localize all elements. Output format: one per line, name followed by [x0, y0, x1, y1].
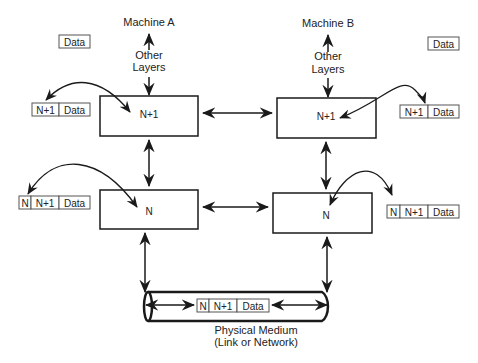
layer-box-a-lower-label: N — [145, 206, 152, 217]
machine-b-label: Machine B — [302, 17, 354, 29]
packet-a-upper: N+1 Data — [32, 103, 90, 116]
packet-a-lower: N N+1 Data — [19, 196, 90, 209]
packet-field-data: Data — [433, 39, 455, 50]
packet-b-lower: N N+1 Data — [387, 205, 459, 218]
packet-field-header-n1: N+1 — [405, 207, 424, 218]
packet-field-header-n: N — [21, 198, 28, 209]
packet-field-data: Data — [64, 37, 86, 48]
packet-medium: N N+1 Data — [197, 299, 269, 312]
packet-b-top: Data — [428, 37, 459, 50]
layer-box-b-lower-label: N — [322, 210, 329, 221]
other-layers-label-b-2: Layers — [311, 63, 345, 75]
packet-field-data: Data — [433, 207, 455, 218]
packet-b-upper: N+1 Data — [400, 105, 459, 118]
layer-box-a-upper-label: N+1 — [140, 109, 159, 120]
other-layers-label-b-1: Other — [314, 50, 342, 62]
layer-box-a-lower: N — [100, 190, 198, 229]
packet-field-header-n: N — [199, 301, 206, 312]
packet-a-top: Data — [59, 35, 90, 48]
machine-a-label: Machine A — [123, 16, 175, 28]
packet-field-header-n: N — [390, 207, 397, 218]
layer-box-b-upper-label: N+1 — [317, 111, 336, 122]
packet-field-data: Data — [433, 107, 455, 118]
packet-field-header-n1: N+1 — [36, 105, 55, 116]
physical-medium-label-1: Physical Medium — [214, 324, 297, 336]
packet-field-data: Data — [242, 301, 264, 312]
other-layers-label-a-2: Layers — [132, 61, 166, 73]
packet-field-header-n1: N+1 — [405, 107, 424, 118]
other-layers-label-a-1: Other — [135, 49, 163, 61]
packet-field-data: Data — [64, 105, 86, 116]
packet-field-header-n1: N+1 — [36, 198, 55, 209]
layer-box-b-upper: N+1 — [277, 98, 376, 138]
packet-field-data: Data — [64, 198, 86, 209]
physical-medium-label-2: (Link or Network) — [214, 336, 298, 348]
layer-box-b-lower: N — [273, 193, 372, 233]
layer-box-a-upper: N+1 — [100, 96, 198, 136]
packet-field-header-n1: N+1 — [214, 301, 233, 312]
